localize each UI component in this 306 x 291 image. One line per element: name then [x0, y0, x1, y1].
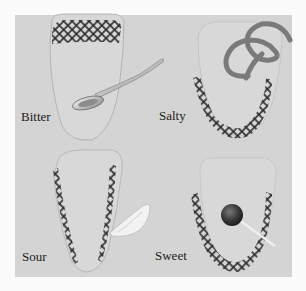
label-sweet: Sweet: [155, 249, 187, 262]
label-sour: Sour: [22, 250, 47, 263]
salty-tongue: [193, 22, 282, 138]
bitter-tongue: [50, 14, 124, 140]
label-bitter: Bitter: [21, 110, 51, 123]
taste-map-illustration: [0, 0, 306, 291]
label-salty: Salty: [159, 109, 186, 122]
sour-tongue: [53, 150, 122, 272]
